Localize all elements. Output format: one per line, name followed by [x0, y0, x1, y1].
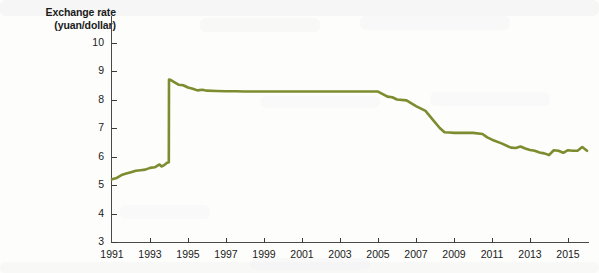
exchange-rate-chart-figure: Exchange rate (yuan/dollar) 109876543 19…: [0, 0, 599, 273]
exchange-rate-line: [112, 80, 587, 180]
chart-plot-area: [0, 0, 599, 273]
